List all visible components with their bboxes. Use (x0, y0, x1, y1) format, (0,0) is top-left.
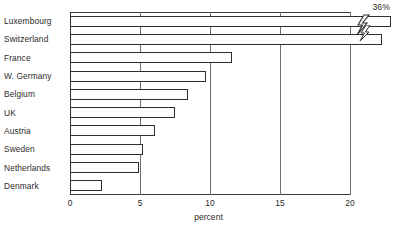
bar (70, 107, 175, 118)
plot-area (70, 12, 350, 195)
category-label: Switzerland (4, 34, 66, 44)
category-label: UK (4, 108, 66, 118)
bar-chart: LuxembourgSwitzerlandFranceW. GermanyBel… (0, 0, 417, 233)
bar (70, 125, 155, 136)
x-axis-title: percent (0, 212, 417, 222)
category-label: Netherlands (4, 163, 66, 173)
category-label: Denmark (4, 181, 66, 191)
bar (70, 89, 188, 100)
category-label: Luxembourg (4, 16, 66, 26)
x-tick-label: 10 (199, 198, 221, 208)
category-label: France (4, 53, 66, 63)
annotation-36-percent: 36% (373, 2, 390, 12)
category-label: Sweden (4, 144, 66, 154)
category-label: Austria (4, 126, 66, 136)
bar (70, 52, 232, 63)
category-axis-labels: LuxembourgSwitzerlandFranceW. GermanyBel… (4, 0, 66, 233)
bar (70, 34, 382, 45)
bar (70, 16, 391, 27)
bar (70, 144, 143, 155)
category-label: Belgium (4, 89, 66, 99)
category-label: W. Germany (4, 71, 66, 81)
bar (70, 180, 102, 191)
x-tick-label: 15 (269, 198, 291, 208)
x-tick-label: 5 (129, 198, 151, 208)
x-tick-label: 20 (339, 198, 361, 208)
bar (70, 162, 139, 173)
bar (70, 71, 206, 82)
x-tick-label: 0 (59, 198, 81, 208)
